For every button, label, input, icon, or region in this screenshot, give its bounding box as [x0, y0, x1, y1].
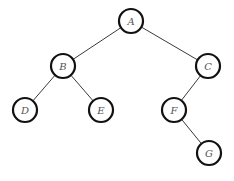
tree-nodes: ABCDEFG: [13, 9, 221, 165]
edge-a-b: [73, 28, 121, 60]
tree-edges: [33, 27, 202, 144]
node-label: B: [58, 61, 66, 72]
tree-node-g: G: [197, 141, 221, 165]
node-label: F: [170, 105, 179, 116]
tree-node-f: F: [162, 98, 186, 122]
edge-c-f: [181, 75, 200, 100]
node-label: C: [204, 61, 212, 72]
tree-node-e: E: [89, 98, 113, 122]
tree-node-c: C: [196, 54, 220, 78]
edge-b-e: [71, 75, 93, 101]
node-label: A: [126, 16, 134, 27]
node-label: G: [205, 148, 213, 159]
tree-node-d: D: [13, 98, 37, 122]
edge-f-g: [182, 119, 202, 143]
tree-node-a: A: [119, 9, 143, 33]
edge-a-c: [141, 27, 197, 60]
node-label: E: [96, 105, 105, 116]
edge-b-d: [33, 75, 55, 101]
tree-node-b: B: [51, 54, 75, 78]
node-label: D: [20, 105, 29, 116]
binary-tree-diagram: ABCDEFG: [0, 0, 234, 181]
